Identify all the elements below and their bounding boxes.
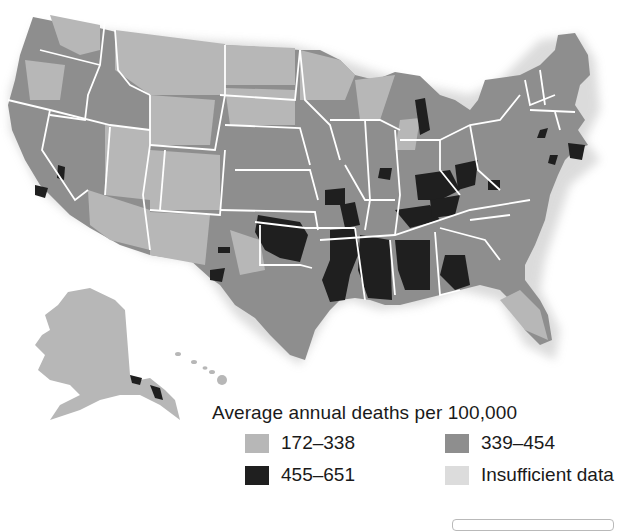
medium-gray-swatch-icon bbox=[445, 434, 469, 453]
legend-item-insufficient-data: Insufficient data bbox=[445, 464, 617, 486]
pale-gray-swatch-icon bbox=[445, 466, 469, 485]
bottom-frame-edge bbox=[452, 519, 614, 531]
legend-label: Insufficient data bbox=[481, 464, 614, 486]
legend-title: Average annual deaths per 100,000 bbox=[212, 402, 612, 424]
legend-label: 172–338 bbox=[281, 432, 355, 454]
legend-item-339-454: 339–454 bbox=[445, 432, 617, 454]
legend-item-455-651: 455–651 bbox=[245, 464, 445, 486]
light-gray-swatch-icon bbox=[245, 434, 269, 453]
alaska bbox=[35, 288, 180, 420]
legend-label: 339–454 bbox=[481, 432, 555, 454]
hawaii bbox=[175, 352, 227, 385]
black-swatch-icon bbox=[245, 466, 269, 485]
map-legend: Average annual deaths per 100,000 172–33… bbox=[212, 402, 612, 486]
legend-label: 455–651 bbox=[281, 464, 355, 486]
legend-item-172-338: 172–338 bbox=[245, 432, 445, 454]
